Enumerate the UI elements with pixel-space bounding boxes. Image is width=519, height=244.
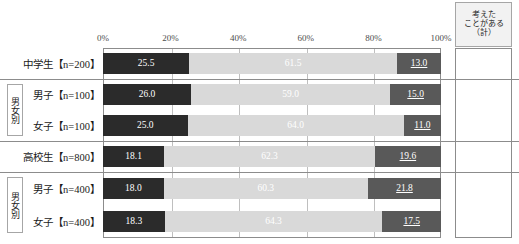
bar-value-1-0: 26.0	[139, 90, 156, 100]
bar-segment-0-0: 25.5	[103, 53, 189, 74]
row-label-wrap-5: 女子【n=400】	[0, 205, 103, 238]
bar-value-2-0: 25.0	[137, 121, 154, 131]
bar-segment-1-2: 15.0	[390, 84, 441, 105]
row-label-wrap-1: 男子【n=100】	[0, 79, 103, 110]
row-label-wrap-3: 高校生【n=800】	[0, 141, 103, 172]
row-label-4: 男子【n=400】	[0, 181, 103, 196]
chart-container: 0% 20% 40% 60% 80% 100% 考えた ことがある （計） 87…	[0, 0, 519, 244]
bar-value-3-2: 19.6	[400, 152, 417, 162]
x-axis-tick-100: 100%	[431, 33, 452, 43]
bar-segment-1-0: 26.0	[103, 84, 191, 105]
bar-segment-2-2: 11.0	[404, 115, 441, 136]
x-axis-tick-0: 0%	[97, 33, 109, 43]
row-label-2: 女子【n=100】	[0, 118, 103, 133]
bar-value-4-2: 21.8	[396, 184, 413, 194]
bar-row-0: 25.5 61.5 13.0	[103, 53, 441, 74]
bar-value-5-0: 18.3	[126, 217, 143, 227]
bar-segment-3-2: 19.6	[375, 146, 441, 167]
bar-segment-5-1: 64.3	[165, 211, 382, 232]
row-label-5: 女子【n=400】	[0, 214, 103, 229]
annotation-header-line-3: （計）	[472, 29, 496, 38]
bar-segment-0-2: 13.0	[397, 53, 441, 74]
bar-segment-3-0: 18.1	[103, 146, 164, 167]
bar-row-4: 18.0 60.3 21.8	[103, 178, 441, 199]
x-axis-tick-60: 60%	[298, 33, 315, 43]
row-label-wrap-0: 中学生【n=200】	[0, 48, 103, 79]
annotation-column-header: 考えた ことがある （計）	[455, 2, 512, 47]
bar-row-5: 18.3 64.3 17.5	[103, 211, 441, 232]
bar-segment-5-2: 17.5	[382, 211, 441, 232]
bar-value-3-0: 18.1	[125, 152, 142, 162]
row-label-3: 高校生【n=800】	[0, 149, 103, 164]
bar-value-2-1: 64.0	[287, 121, 304, 131]
row-label-0: 中学生【n=200】	[0, 56, 103, 71]
bar-value-0-1: 61.5	[285, 59, 302, 69]
bar-segment-4-2: 21.8	[368, 178, 442, 199]
bar-value-0-2: 13.0	[411, 59, 428, 69]
bar-row-2: 25.0 64.0 11.0	[103, 115, 441, 136]
x-axis-tick-40: 40%	[230, 33, 247, 43]
bar-segment-3-1: 62.3	[164, 146, 375, 167]
bar-value-1-2: 15.0	[407, 90, 424, 100]
row-label-wrap-2: 女子【n=100】	[0, 110, 103, 141]
row-label-wrap-4: 男子【n=400】	[0, 172, 103, 205]
row-label-1: 男子【n=100】	[0, 87, 103, 102]
bar-segment-2-1: 64.0	[188, 115, 404, 136]
bar-segment-0-1: 61.5	[189, 53, 397, 74]
bar-value-4-0: 18.0	[125, 184, 142, 194]
bar-value-5-2: 17.5	[403, 217, 420, 227]
bar-value-2-2: 11.0	[414, 121, 430, 131]
bar-row-1: 26.0 59.0 15.0	[103, 84, 441, 105]
x-axis-tick-20: 20%	[162, 33, 179, 43]
bar-segment-2-0: 25.0	[103, 115, 188, 136]
bar-value-5-1: 64.3	[265, 217, 282, 227]
bar-value-0-0: 25.5	[138, 59, 155, 69]
bar-segment-4-1: 60.3	[164, 178, 368, 199]
bar-value-1-1: 59.0	[282, 90, 299, 100]
bar-segment-5-0: 18.3	[103, 211, 165, 232]
bar-value-4-1: 60.3	[257, 184, 274, 194]
bar-segment-1-1: 59.0	[191, 84, 390, 105]
bar-value-3-1: 62.3	[261, 152, 278, 162]
bar-segment-4-0: 18.0	[103, 178, 164, 199]
bar-row-3: 18.1 62.3 19.6	[103, 146, 441, 167]
x-axis-tick-labels: 0% 20% 40% 60% 80% 100%	[0, 33, 519, 47]
x-axis-tick-80: 80%	[365, 33, 382, 43]
